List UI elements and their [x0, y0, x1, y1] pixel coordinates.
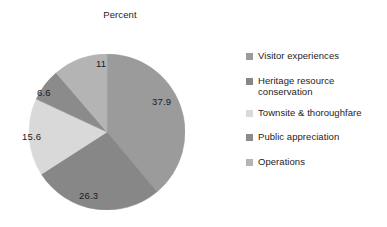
pie-chart-figure: Percent 37.926.315.66.611 Visitor experi… [0, 0, 387, 227]
legend-item[interactable]: Operations [246, 156, 387, 168]
chart-title: Percent [0, 9, 240, 20]
legend-color-swatch-icon [246, 159, 253, 166]
legend-item[interactable]: Visitor experiences [246, 50, 387, 62]
chart-legend: Visitor experiencesHeritage resource con… [246, 50, 387, 180]
pie-slice-value-label: 26.3 [79, 190, 98, 201]
pie-slice-value-label: 11 [96, 58, 106, 69]
pie-chart-svg [29, 54, 185, 210]
legend-color-swatch-icon [246, 53, 253, 60]
pie-slice-value-label: 37.9 [152, 96, 171, 107]
legend-item-label: Operations [258, 156, 305, 168]
legend-item[interactable]: Public appreciation [246, 131, 387, 143]
legend-color-swatch-icon [246, 110, 253, 117]
legend-color-swatch-icon [246, 78, 253, 85]
legend-item-label: Public appreciation [258, 131, 339, 143]
pie-slice-value-label: 15.6 [22, 131, 41, 142]
legend-item[interactable]: Heritage resource conservation [246, 75, 387, 98]
pie-slice-value-label: 6.6 [37, 87, 51, 98]
legend-item-label: Heritage resource conservation [258, 75, 387, 98]
legend-color-swatch-icon [246, 134, 253, 141]
legend-item[interactable]: Townsite & thoroughfare [246, 107, 387, 119]
pie-slice-group [29, 54, 185, 210]
legend-item-label: Townsite & thoroughfare [258, 107, 362, 119]
legend-item-label: Visitor experiences [258, 50, 339, 62]
pie-chart-plot-area: 37.926.315.66.611 [29, 54, 185, 210]
